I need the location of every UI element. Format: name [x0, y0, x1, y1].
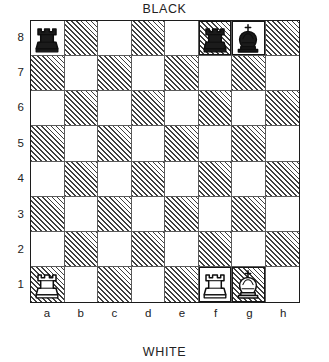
square-e5[interactable]	[165, 126, 199, 161]
square-a2[interactable]	[31, 232, 65, 267]
file-label-d: d	[131, 307, 165, 319]
square-c3[interactable]	[98, 197, 132, 232]
square-g4[interactable]	[232, 162, 266, 197]
square-a8[interactable]	[31, 21, 65, 56]
square-f7[interactable]	[199, 56, 233, 91]
board-with-coordinates	[30, 20, 300, 303]
square-g8[interactable]	[232, 21, 266, 56]
black-rook-icon[interactable]	[200, 23, 230, 53]
rank-label-6: 6	[2, 101, 24, 113]
file-label-b: b	[64, 307, 98, 319]
square-b7[interactable]	[65, 56, 99, 91]
square-d1[interactable]	[132, 267, 166, 302]
square-a1[interactable]	[31, 267, 65, 302]
square-f3[interactable]	[199, 197, 233, 232]
square-b3[interactable]	[65, 197, 99, 232]
square-h6[interactable]	[266, 91, 300, 126]
square-g6[interactable]	[232, 91, 266, 126]
square-a7[interactable]	[31, 56, 65, 91]
square-b6[interactable]	[65, 91, 99, 126]
rank-label-1: 1	[2, 278, 24, 290]
square-h5[interactable]	[266, 126, 300, 161]
square-e8[interactable]	[165, 21, 199, 56]
square-c1[interactable]	[98, 267, 132, 302]
white-side-label: WHITE	[0, 345, 329, 359]
square-f8[interactable]	[199, 21, 233, 56]
white-king-icon[interactable]	[233, 269, 263, 299]
square-d8[interactable]	[132, 21, 166, 56]
square-g1[interactable]	[232, 267, 266, 302]
square-h4[interactable]	[266, 162, 300, 197]
square-e6[interactable]	[165, 91, 199, 126]
square-b8[interactable]	[65, 21, 99, 56]
square-c6[interactable]	[98, 91, 132, 126]
file-label-h: h	[266, 307, 300, 319]
square-b5[interactable]	[65, 126, 99, 161]
square-b2[interactable]	[65, 232, 99, 267]
square-c5[interactable]	[98, 126, 132, 161]
square-g2[interactable]	[232, 232, 266, 267]
square-b1[interactable]	[65, 267, 99, 302]
square-a5[interactable]	[31, 126, 65, 161]
square-g7[interactable]	[232, 56, 266, 91]
rank-label-7: 7	[2, 66, 24, 78]
square-d2[interactable]	[132, 232, 166, 267]
square-a4[interactable]	[31, 162, 65, 197]
square-h2[interactable]	[266, 232, 300, 267]
black-rook-icon[interactable]	[32, 23, 62, 53]
file-label-g: g	[233, 307, 267, 319]
square-f5[interactable]	[199, 126, 233, 161]
rank-label-3: 3	[2, 208, 24, 220]
square-d6[interactable]	[132, 91, 166, 126]
square-f4[interactable]	[199, 162, 233, 197]
square-f1[interactable]	[199, 267, 233, 302]
square-e1[interactable]	[165, 267, 199, 302]
white-rook-icon[interactable]	[32, 269, 62, 299]
square-e2[interactable]	[165, 232, 199, 267]
rank-label-8: 8	[2, 31, 24, 43]
file-label-f: f	[199, 307, 233, 319]
square-d7[interactable]	[132, 56, 166, 91]
square-c4[interactable]	[98, 162, 132, 197]
black-king-icon[interactable]	[233, 23, 263, 53]
square-h1[interactable]	[266, 267, 300, 302]
square-c2[interactable]	[98, 232, 132, 267]
square-a6[interactable]	[31, 91, 65, 126]
square-e4[interactable]	[165, 162, 199, 197]
square-g5[interactable]	[232, 126, 266, 161]
square-d4[interactable]	[132, 162, 166, 197]
file-label-c: c	[98, 307, 132, 319]
chess-board[interactable]	[30, 20, 300, 303]
file-label-e: e	[165, 307, 199, 319]
rank-label-2: 2	[2, 243, 24, 255]
square-f2[interactable]	[199, 232, 233, 267]
square-g3[interactable]	[232, 197, 266, 232]
square-e7[interactable]	[165, 56, 199, 91]
white-rook-icon[interactable]	[200, 269, 230, 299]
rank-label-4: 4	[2, 172, 24, 184]
square-h7[interactable]	[266, 56, 300, 91]
file-label-a: a	[30, 307, 64, 319]
rank-label-5: 5	[2, 137, 24, 149]
square-e3[interactable]	[165, 197, 199, 232]
square-h8[interactable]	[266, 21, 300, 56]
square-a3[interactable]	[31, 197, 65, 232]
square-d5[interactable]	[132, 126, 166, 161]
square-c7[interactable]	[98, 56, 132, 91]
square-c8[interactable]	[98, 21, 132, 56]
square-h3[interactable]	[266, 197, 300, 232]
black-side-label: BLACK	[0, 2, 329, 16]
square-d3[interactable]	[132, 197, 166, 232]
chess-diagram: BLACK	[0, 0, 329, 362]
square-b4[interactable]	[65, 162, 99, 197]
square-f6[interactable]	[199, 91, 233, 126]
